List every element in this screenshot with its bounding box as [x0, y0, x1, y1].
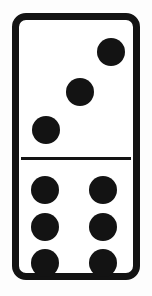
image-canvas: Domino 3 | 6 3 6 9 Domino tile 3-6 [0, 0, 152, 296]
scene-caption: Domino tile 3-6 [0, 0, 1, 1]
domino-tile [12, 13, 140, 280]
pip-center [66, 78, 94, 106]
pip-right-middle [89, 213, 117, 241]
pip-right-top [89, 176, 117, 204]
domino-face [19, 20, 133, 273]
pip-right-bottom [89, 249, 117, 277]
pip-bottom-left [32, 116, 60, 144]
pip-left-top [31, 176, 59, 204]
domino-total-value: 9 [0, 0, 1, 1]
domino-bottom-half [19, 160, 133, 273]
domino-label: Domino 3 | 6 [0, 0, 1, 1]
domino-bottom-value: 6 [0, 0, 1, 1]
domino-top-half [19, 20, 133, 157]
pip-top-right [97, 38, 125, 66]
pip-left-middle [31, 213, 59, 241]
domino-top-value: 3 [0, 0, 1, 1]
pip-left-bottom [31, 249, 59, 277]
